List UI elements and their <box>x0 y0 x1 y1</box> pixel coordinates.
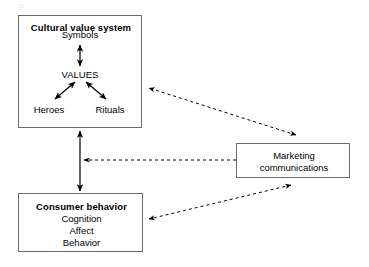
node-marketing-communications: Marketing communications <box>236 143 350 178</box>
consumer-behavior-item-behavior: Behavior <box>19 237 144 249</box>
label-symbols: Symbols <box>18 29 142 41</box>
marketing-communications-line-2: communications <box>237 162 351 174</box>
marketing-communications-content: Marketing communications <box>237 150 351 174</box>
connector-cultural-marketing <box>149 88 296 135</box>
consumer-behavior-content: Consumer behavior Cognition Affect Behav… <box>19 201 144 249</box>
diagram-canvas: µ Cultural value system Symbols VALUES H <box>0 0 369 267</box>
connector-consumer-marketing <box>149 185 291 219</box>
consumer-behavior-title: Consumer behavior <box>19 201 144 213</box>
consumer-behavior-item-cognition: Cognition <box>19 213 144 225</box>
label-rituals: Rituals <box>84 104 136 116</box>
marketing-communications-line-1: Marketing <box>237 150 351 162</box>
label-heroes: Heroes <box>24 104 74 116</box>
node-consumer-behavior: Consumer behavior Cognition Affect Behav… <box>18 193 143 252</box>
consumer-behavior-item-affect: Affect <box>19 225 144 237</box>
label-values: VALUES <box>18 69 142 81</box>
